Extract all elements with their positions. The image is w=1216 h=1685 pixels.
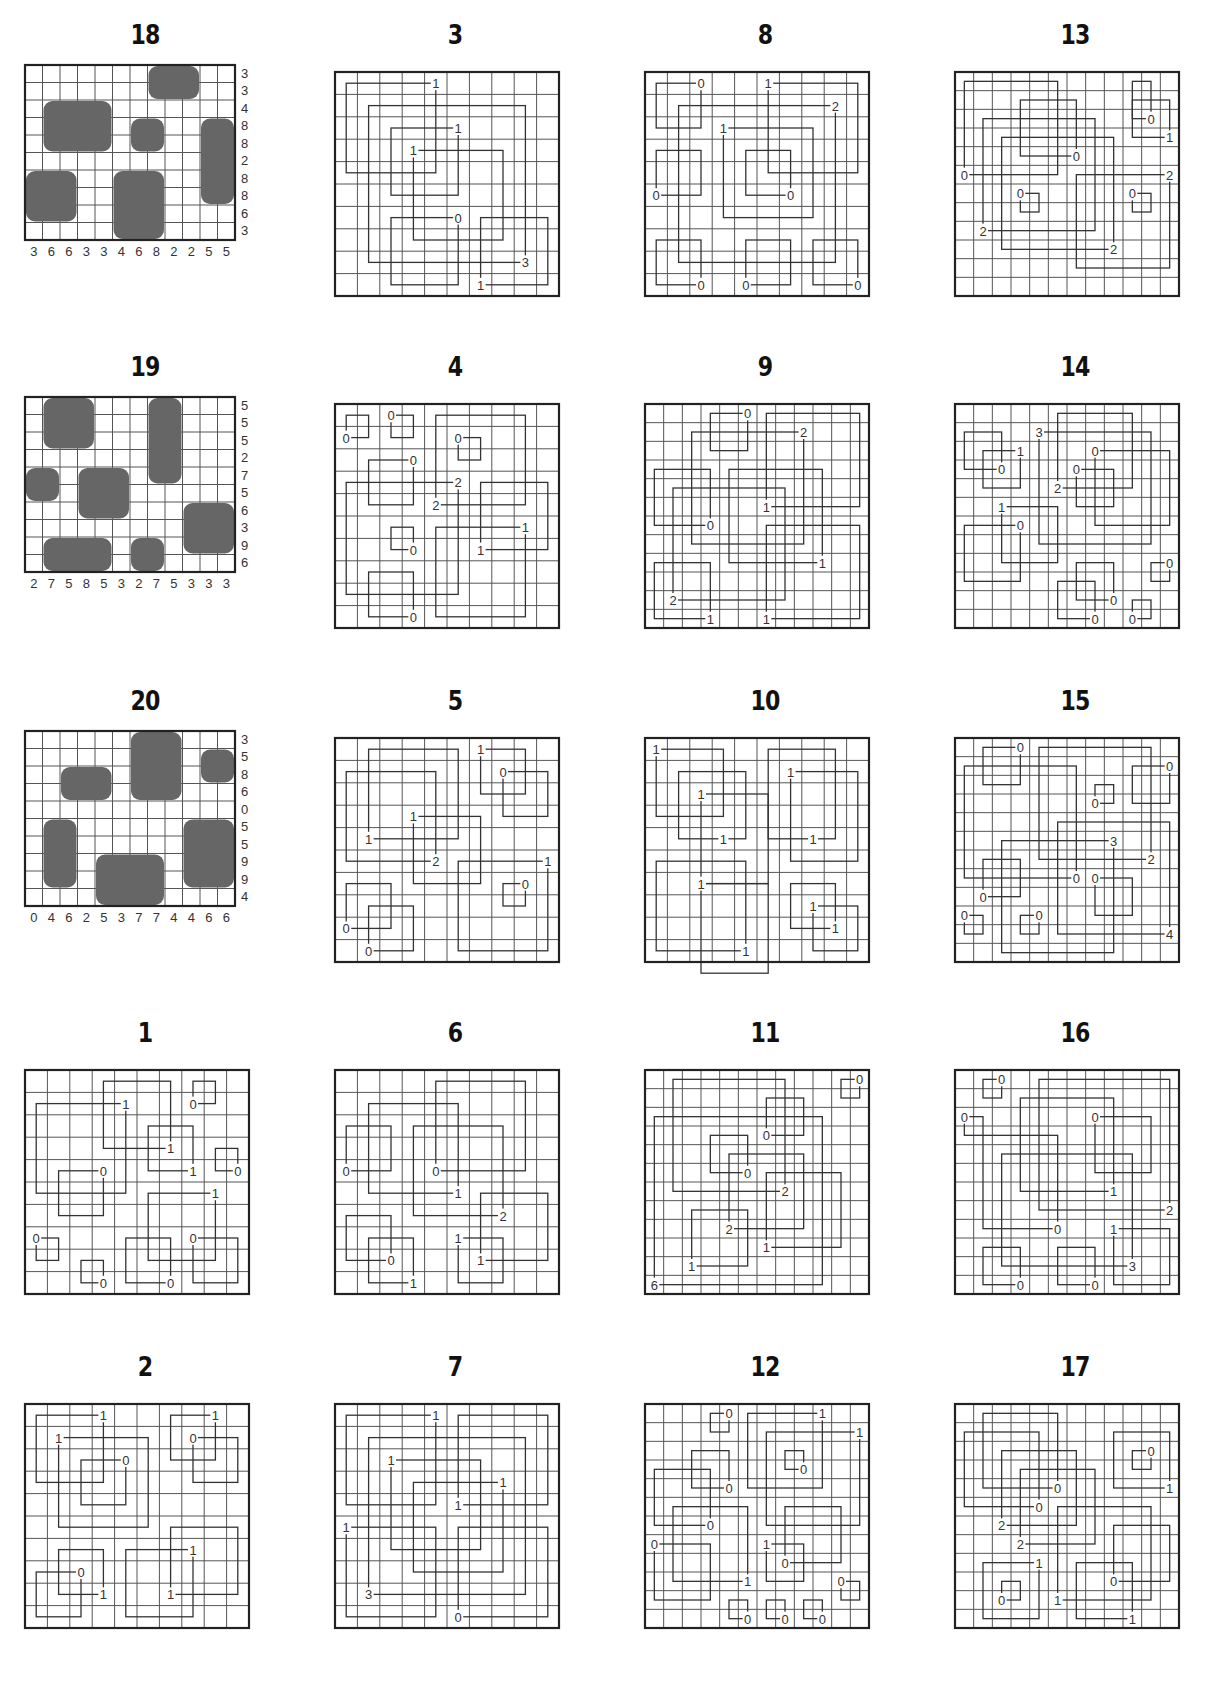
loop-label: 0	[854, 278, 861, 293]
loop-label: 0	[1054, 1222, 1061, 1237]
loop-label: 1	[1166, 130, 1173, 145]
loop-label: 0	[1017, 1278, 1024, 1293]
row-clue: 8	[241, 136, 248, 151]
loop-label: 1	[720, 832, 727, 847]
column-clue: 7	[135, 910, 142, 925]
loop-label: 0	[707, 1518, 714, 1533]
loop-label: 1	[100, 1587, 107, 1602]
column-clue: 6	[48, 244, 55, 259]
loop-label: 0	[979, 890, 986, 905]
loop-label: 0	[122, 1453, 129, 1468]
loop-label: 1	[787, 765, 794, 780]
column-clue: 0	[30, 910, 37, 925]
loop-label: 0	[742, 278, 749, 293]
loop-label: 1	[432, 1408, 439, 1423]
loop-label: 1	[1110, 1222, 1117, 1237]
loop-label: 0	[1147, 112, 1154, 127]
ship-grid: 5552756396275853275333	[25, 397, 265, 602]
loop-label: 0	[365, 944, 372, 959]
row-clue: 5	[241, 749, 248, 764]
ship	[61, 767, 112, 800]
loop-grid: 101121000	[335, 738, 563, 966]
loop-label: 0	[522, 877, 529, 892]
loop-grid: 0001201300	[955, 1070, 1183, 1298]
row-clue: 9	[241, 872, 248, 887]
loop-label: 0	[455, 431, 462, 446]
loop-label: 0	[1129, 186, 1136, 201]
puzzle-number: 13	[965, 20, 1186, 50]
loop-label: 0	[1054, 1481, 1061, 1496]
row-clue: 9	[241, 538, 248, 553]
loop-label: 3	[365, 1587, 372, 1602]
loop-label: 0	[1091, 444, 1098, 459]
loop-label: 0	[1091, 1278, 1098, 1293]
loop-label: 1	[742, 944, 749, 959]
loop-label: 0	[410, 543, 417, 558]
column-clue: 3	[83, 244, 90, 259]
row-clue: 3	[241, 223, 248, 238]
ship	[131, 732, 182, 800]
loop-label: 2	[1147, 852, 1154, 867]
ship	[184, 503, 235, 554]
puzzle-number: 16	[965, 1018, 1186, 1048]
column-clue: 6	[205, 910, 212, 925]
loop-label: 0	[1091, 871, 1098, 886]
loop-label: 0	[499, 765, 506, 780]
loop-grid: 1111130	[335, 1404, 563, 1632]
loop-label: 0	[432, 1164, 439, 1179]
loop-grid: 01002210011	[955, 1404, 1183, 1632]
column-clue: 3	[30, 244, 37, 259]
row-clue: 3	[241, 520, 248, 535]
loop-label: 0	[410, 610, 417, 625]
puzzle-number: 20	[35, 686, 256, 716]
loop-label: 4	[1166, 927, 1173, 942]
column-clue: 3	[100, 244, 107, 259]
loop-label: 3	[1129, 1259, 1136, 1274]
column-clue: 5	[100, 576, 107, 591]
ship	[149, 398, 182, 484]
loop-label: 0	[998, 1072, 1005, 1087]
column-clue: 7	[153, 576, 160, 591]
loop-label: 0	[800, 1462, 807, 1477]
ship-grid: 3348828863366334682255	[25, 65, 265, 270]
loop-label: 1	[763, 612, 770, 627]
row-clue: 8	[241, 118, 248, 133]
puzzle-number: 3	[345, 20, 566, 50]
loop-label: 1	[1166, 1481, 1173, 1496]
column-clue: 2	[83, 910, 90, 925]
loop-grid: 00032000004	[955, 738, 1183, 966]
loop-label: 1	[819, 556, 826, 571]
loop-label: 0	[1166, 556, 1173, 571]
column-clue: 8	[153, 244, 160, 259]
loop-label: 1	[410, 1276, 417, 1291]
loop-label: 1	[122, 1097, 129, 1112]
column-clue: 7	[153, 910, 160, 925]
loop-label: 2	[1054, 481, 1061, 496]
column-clue: 5	[100, 910, 107, 925]
loop-label: 0	[697, 278, 704, 293]
ship-grid: 3586055994046253774466	[25, 731, 265, 936]
loop-label: 2	[998, 1518, 1005, 1533]
puzzle-number: 18	[35, 20, 256, 50]
loop-label: 0	[189, 1231, 196, 1246]
loop-label: 0	[998, 462, 1005, 477]
row-clue: 7	[241, 468, 248, 483]
ship	[149, 66, 200, 99]
loop-label: 1	[763, 1537, 770, 1552]
loop-label: 0	[653, 188, 660, 203]
loop-label: 1	[763, 500, 770, 515]
puzzle-number: 10	[655, 686, 876, 716]
loop-label: 1	[809, 832, 816, 847]
loop-label: 1	[819, 1406, 826, 1421]
ship	[201, 119, 234, 205]
row-clue: 9	[241, 854, 248, 869]
loop-label: 0	[837, 1574, 844, 1589]
loop-grid: 10110010000	[25, 1070, 253, 1298]
loop-label: 0	[1073, 462, 1080, 477]
ship	[96, 855, 164, 906]
loop-label: 0	[1017, 518, 1024, 533]
loop-label: 0	[1129, 612, 1136, 627]
row-clue: 8	[241, 188, 248, 203]
loop-label: 0	[819, 1612, 826, 1627]
puzzle-number: 2	[35, 1352, 256, 1382]
